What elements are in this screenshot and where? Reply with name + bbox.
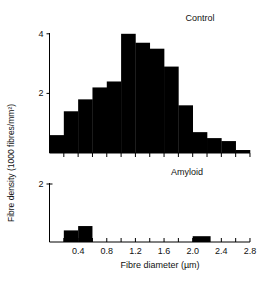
x-tick-label: 1.2 [129, 246, 142, 256]
histogram-bar [164, 67, 179, 153]
x-tick-label: 1.6 [158, 246, 171, 256]
histogram-bar [135, 43, 150, 153]
histogram-bar [107, 81, 122, 153]
histogram-bar [78, 226, 92, 242]
histogram-bar [193, 132, 208, 153]
histogram-bar [64, 111, 79, 153]
histogram-bar [92, 87, 107, 153]
histogram-bar [178, 105, 193, 153]
y-tick-label: 4 [38, 29, 43, 39]
histogram-bar [193, 236, 211, 242]
x-tick-label: 2.4 [215, 246, 228, 256]
histogram-bar [221, 141, 236, 153]
histogram-bar [78, 99, 93, 153]
histogram-bar [50, 135, 65, 153]
x-tick-label: 0.8 [101, 246, 114, 256]
y-tick-label: 2 [38, 88, 43, 98]
histogram-bar [64, 230, 78, 242]
x-tick-label: 0.4 [72, 246, 85, 256]
histogram-bar [207, 138, 222, 153]
histogram-plot: 2420.40.81.21.62.02.42.8 [0, 0, 270, 282]
histogram-bar [150, 49, 165, 153]
y-tick-label: 2 [38, 179, 43, 189]
x-tick-label: 2.8 [244, 246, 257, 256]
histogram-bar [121, 34, 136, 153]
x-tick-label: 2.0 [186, 246, 199, 256]
